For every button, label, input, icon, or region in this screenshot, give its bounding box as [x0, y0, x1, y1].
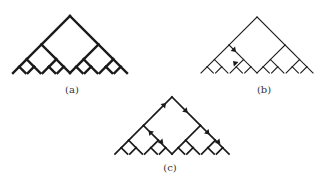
- tree-a: [13, 16, 127, 73]
- tree-c: [115, 97, 229, 154]
- label-b: (b): [257, 84, 271, 95]
- tree-diagram: [0, 0, 322, 180]
- tree-b: [201, 17, 313, 73]
- label-c: (c): [163, 162, 176, 173]
- label-a: (a): [65, 84, 79, 95]
